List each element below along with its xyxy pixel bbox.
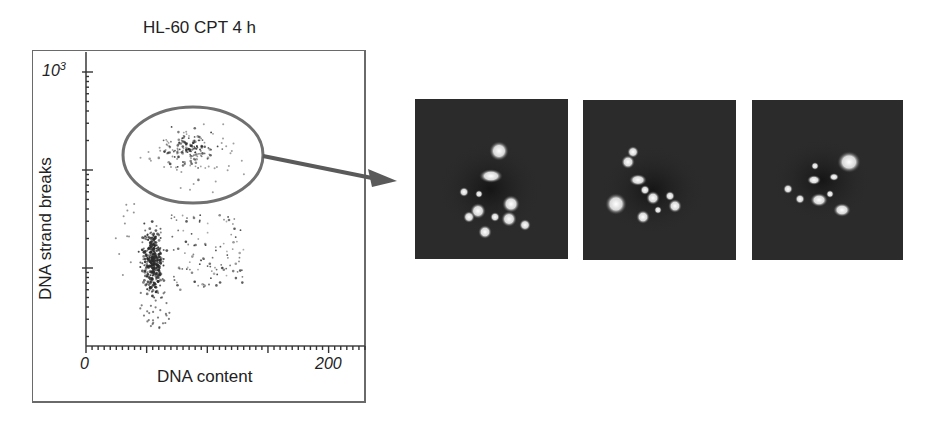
cell-3-nucleus-fragments: [752, 100, 903, 260]
data-points: [115, 123, 245, 329]
y-axis-ticks: [82, 72, 93, 336]
x-axis-ticks: [86, 346, 365, 353]
cell-image-1: [415, 99, 568, 259]
cell-2-nucleus-fragments: [583, 100, 736, 260]
flow-cytometry-figure: HL-60 CPT 4 h DNA strand breaks DNA cont…: [0, 0, 925, 431]
cell-1-nucleus-fragments: [415, 99, 568, 259]
gate-ellipse: [123, 107, 263, 203]
cell-image-3: [752, 100, 903, 260]
cell-image-2: [583, 100, 736, 260]
arrow-icon: [263, 156, 397, 187]
